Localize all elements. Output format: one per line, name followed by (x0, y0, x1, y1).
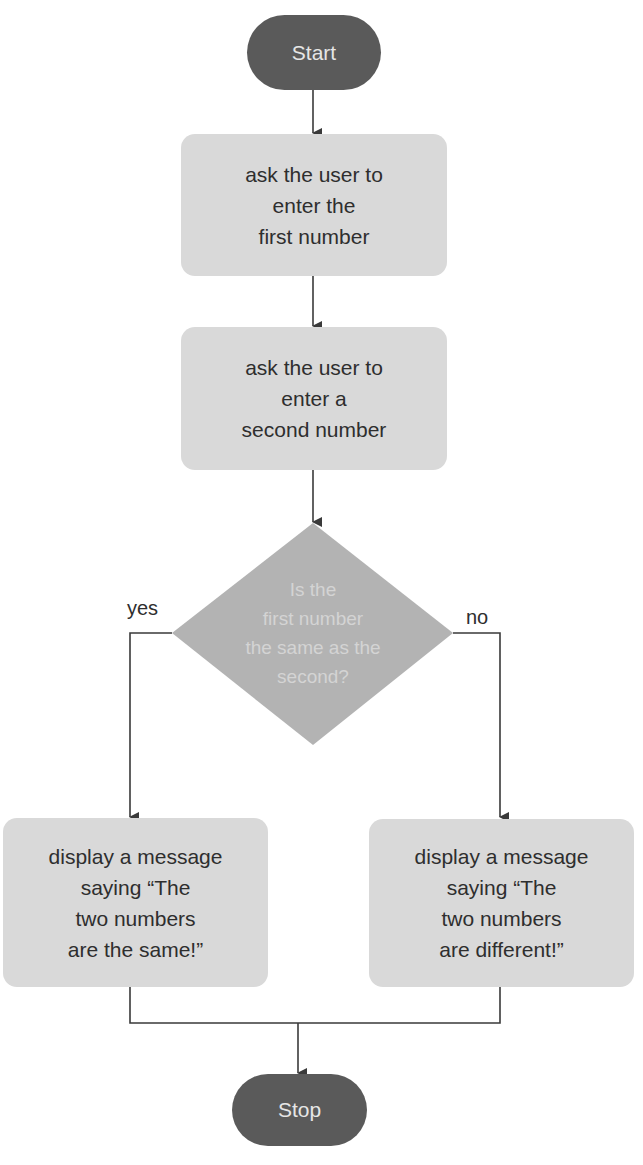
start-terminal: Start (247, 15, 381, 90)
flowchart: Start ask the user to enter the first nu… (0, 0, 643, 1165)
ask-first-line-3: first number (259, 221, 370, 252)
start-label: Start (292, 41, 336, 65)
edge-yes-branch (130, 633, 172, 817)
same-line-1: display a message (49, 841, 223, 872)
same-line-4: are the same!” (68, 934, 203, 965)
decision-line-3: the same as the (245, 633, 380, 662)
same-message-box: display a message saying “The two number… (3, 818, 268, 987)
edge-merge (130, 987, 500, 1023)
yes-label: yes (127, 597, 158, 620)
ask-first-line-1: ask the user to (245, 159, 383, 190)
ask-second-number-box: ask the user to enter a second number (181, 327, 447, 470)
ask-second-line-2: enter a (281, 383, 346, 414)
decision-line-1: Is the (290, 575, 336, 604)
stop-label: Stop (278, 1098, 321, 1122)
ask-second-line-1: ask the user to (245, 352, 383, 383)
edge-no-branch (453, 633, 500, 817)
stop-terminal: Stop (232, 1074, 367, 1146)
decision-line-4: second? (277, 662, 349, 691)
same-line-3: two numbers (75, 903, 195, 934)
different-message-box: display a message saying “The two number… (369, 819, 634, 987)
diff-line-1: display a message (415, 841, 589, 872)
diff-line-3: two numbers (441, 903, 561, 934)
ask-second-line-3: second number (242, 414, 387, 445)
diff-line-2: saying “The (447, 872, 557, 903)
decision-text: Is the first number the same as the seco… (200, 568, 426, 698)
same-line-2: saying “The (81, 872, 191, 903)
diff-line-4: are different!” (439, 934, 564, 965)
ask-first-line-2: enter the (273, 190, 356, 221)
decision-line-2: first number (263, 604, 363, 633)
ask-first-number-box: ask the user to enter the first number (181, 134, 447, 276)
no-label: no (466, 606, 488, 629)
